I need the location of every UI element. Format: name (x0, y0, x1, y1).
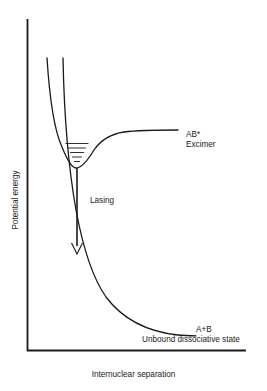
curve-upper-excimer-state (47, 58, 178, 168)
lasing-transition-label: Lasing (90, 196, 114, 206)
lasing-arrow (72, 168, 83, 254)
lower-state-label: A+B (196, 325, 212, 335)
upper-state-label: AB* (186, 130, 200, 140)
y-axis-label: Potential energy (11, 150, 21, 250)
diagram-canvas (0, 0, 267, 391)
upper-state-sublabel: Excimer (186, 140, 216, 150)
axis-lines (28, 20, 246, 351)
curve-lower-dissociative-state (63, 58, 196, 336)
x-axis-label: Internuclear separation (0, 370, 267, 380)
potential-energy-diagram: AB* Excimer A+B Unbound dissociative sta… (0, 0, 267, 391)
lower-state-sublabel: Unbound dissociative state (142, 335, 240, 345)
